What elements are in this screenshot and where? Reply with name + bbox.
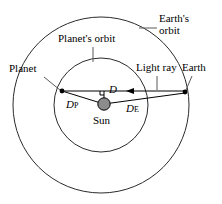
light-ray-arrowhead (126, 88, 134, 94)
earth-distance-label: DE (126, 103, 139, 114)
earth-leader-line (186, 76, 192, 90)
earth-distance-subscript: E (134, 105, 139, 114)
planets-orbit-label: Planet's orbit (58, 33, 115, 44)
earths-orbit-label: Earth's orbit (159, 13, 189, 36)
planet-distance-label: DP (66, 99, 78, 110)
earths-orbit-label-line1: Earth's (159, 12, 189, 24)
planet-distance-symbol: D (66, 98, 74, 110)
sun-disc (98, 98, 110, 110)
planet-label: Planet (9, 63, 37, 74)
perpendicular-distance-label: D (109, 84, 117, 95)
orbit-diagram: Earth's orbit Planet's orbit Planet Ligh… (0, 0, 222, 204)
earths-orbit-label-line2: orbit (159, 25, 189, 36)
sun-label: Sun (93, 115, 110, 126)
earth-label: Earth (182, 62, 206, 73)
planet-point-marker (60, 89, 65, 94)
planet-leader-line (44, 77, 60, 90)
right-angle-marker (100, 91, 104, 95)
light-ray-label: Light ray (136, 62, 177, 73)
earth-point-marker (183, 90, 188, 95)
planet-distance-subscript: P (74, 101, 78, 110)
earth-distance-symbol: D (126, 102, 134, 114)
